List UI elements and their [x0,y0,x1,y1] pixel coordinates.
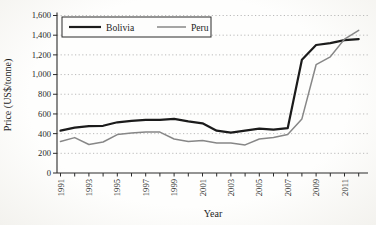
x-tick-label: 2011 [340,179,350,196]
x-tick-label: 1999 [169,179,179,196]
axis-layer: 02004006008001,0001,2001,4001,6001991199… [32,10,368,196]
x-tick-label: 2007 [283,178,293,196]
x-tick-label: 2005 [254,179,264,196]
y-tick-label: 400 [38,129,51,139]
y-tick-label: 600 [38,109,51,119]
price-chart-figure: 02004006008001,0001,2001,4001,6001991199… [0,0,376,225]
y-tick-label: 1,400 [32,30,51,40]
x-tick-label: 1991 [56,179,66,196]
y-tick-label: 200 [38,148,51,158]
series-layer [61,30,359,145]
legend-label-bolivia: Bolivia [106,22,135,33]
legend-label-peru: Peru [191,22,209,33]
x-tick-label: 1993 [84,179,94,196]
y-tick-label: 0 [47,168,51,178]
y-tick-label: 800 [38,89,51,99]
x-axis-title: Year [204,208,223,219]
x-tick-label: 2001 [198,179,208,196]
x-tick-label: 1995 [112,179,122,196]
y-tick-label: 1,000 [32,69,51,79]
x-tick-label: 2009 [311,179,321,196]
x-tick-label: 2003 [226,179,236,196]
y-tick-label: 1,200 [32,50,51,60]
y-tick-label: 1,600 [32,10,51,20]
y-axis-title: Price (US$/tonne) [2,59,14,132]
x-tick-label: 1997 [141,178,151,196]
legend: BoliviaPeru [62,17,211,37]
price-line-chart: 02004006008001,0001,2001,4001,6001991199… [0,0,376,225]
bolivia-series-line [61,39,359,133]
